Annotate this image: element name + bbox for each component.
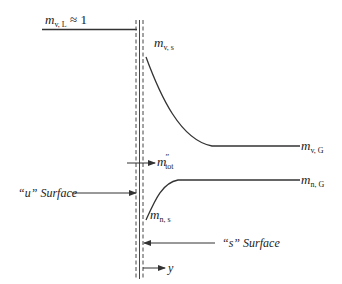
vapor-surface-label: mv, s <box>154 35 174 52</box>
vapor-gas-label: mv, G <box>301 138 324 155</box>
inert-fraction-curve <box>146 180 300 220</box>
vapor-fraction-curve <box>146 57 300 146</box>
inert-surface-label: mn, s <box>150 207 171 224</box>
s-surface-label: “s” Surface <box>222 236 280 250</box>
liquid-fraction-label: mv, L ≈ 1 <box>45 12 87 29</box>
inert-gas-label: mn, G <box>301 172 324 189</box>
mass-transfer-diagram: mv, L ≈ 1 mv, s mv, G m″tot mn, G mn, s … <box>0 0 342 284</box>
y-axis-label: y <box>167 261 174 275</box>
u-surface-label: “u” Surface <box>18 186 78 200</box>
mass-flux-label: m″tot <box>157 152 174 171</box>
